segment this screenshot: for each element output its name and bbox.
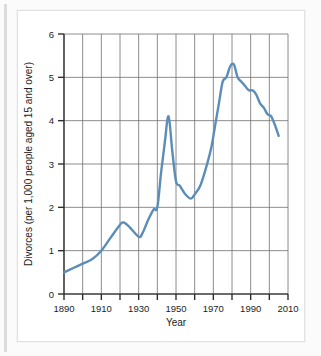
y-tick-label: 5 — [49, 72, 54, 83]
x-tick-label: 1970 — [203, 303, 224, 314]
x-tick-label: 1930 — [128, 303, 149, 314]
x-tick-label: 1950 — [165, 303, 186, 314]
y-tick-label: 4 — [49, 115, 54, 126]
x-axis-tick-marks — [64, 294, 288, 300]
x-tick-label: 1990 — [240, 303, 261, 314]
x-axis-title: Year — [166, 317, 187, 328]
y-axis-tick-labels: 0123456 — [49, 29, 54, 300]
y-tick-label: 1 — [49, 245, 54, 256]
x-tick-label: 1890 — [53, 303, 74, 314]
x-axis-tick-labels: 1890191019301950197019902010 — [53, 303, 298, 314]
y-axis-tick-marks — [58, 34, 64, 294]
y-tick-label: 6 — [49, 29, 54, 40]
page-edge-rail — [4, 4, 7, 352]
divorce-rate-series-line — [64, 64, 279, 273]
y-axis-title: Divorces (per 1,000 people aged 15 and o… — [23, 62, 34, 266]
divorce-rate-line-chart: 1890191019301950197019902010 0123456 Yea… — [18, 11, 304, 341]
x-tick-label: 1910 — [91, 303, 112, 314]
x-tick-label: 2010 — [277, 303, 298, 314]
y-tick-label: 2 — [49, 202, 54, 213]
y-tick-label: 0 — [49, 289, 54, 300]
y-tick-label: 3 — [49, 159, 54, 170]
figure-frame: 1890191019301950197019902010 0123456 Yea… — [17, 10, 305, 342]
